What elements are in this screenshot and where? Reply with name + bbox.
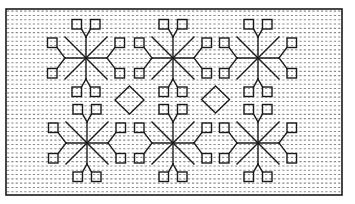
- branch-line: [194, 48, 202, 59]
- pattern-canvas: [0, 0, 355, 204]
- arm-square: [48, 69, 58, 79]
- arm-square: [135, 38, 145, 48]
- branch-line: [279, 133, 287, 144]
- arm-square: [115, 69, 125, 79]
- center-dot: [172, 57, 175, 60]
- branch-line: [58, 133, 66, 144]
- branch-line: [144, 48, 152, 59]
- arm-square: [178, 20, 188, 30]
- arm-square: [202, 69, 212, 79]
- arm-square: [178, 87, 188, 97]
- arm-square: [178, 172, 188, 182]
- diamond-right: [202, 86, 230, 113]
- branch-line: [169, 114, 174, 122]
- arm-square: [263, 172, 273, 182]
- arm-square: [92, 105, 102, 115]
- branch-line: [57, 48, 65, 59]
- branch-line: [194, 133, 202, 144]
- branch-line: [107, 48, 115, 59]
- branch-line: [229, 48, 237, 59]
- center-dot: [86, 142, 89, 145]
- arm-square: [135, 154, 145, 164]
- branch-line: [229, 133, 237, 144]
- arm-square: [135, 123, 145, 133]
- arm-square: [159, 172, 169, 182]
- center-dot: [172, 142, 175, 145]
- center-dot: [85, 57, 88, 60]
- branch-line: [144, 133, 152, 144]
- arm-square: [92, 172, 102, 182]
- arm-square: [244, 172, 254, 182]
- branch-line: [258, 164, 263, 172]
- branch-line: [83, 114, 88, 122]
- center-dot: [257, 142, 260, 145]
- arm-square: [49, 154, 59, 164]
- arm-square: [73, 172, 83, 182]
- snowflake-pattern-diagram: [0, 0, 355, 204]
- arm-square: [178, 105, 188, 115]
- branch-line: [279, 48, 287, 59]
- arm-square: [135, 69, 145, 79]
- branch-line: [87, 114, 92, 122]
- center-dot: [257, 57, 260, 60]
- arm-square: [287, 69, 297, 79]
- arm-square: [49, 123, 59, 133]
- branch-line: [254, 114, 259, 122]
- arm-square: [220, 69, 230, 79]
- branch-line: [173, 114, 178, 122]
- branch-line: [108, 133, 116, 144]
- branch-line: [258, 114, 263, 122]
